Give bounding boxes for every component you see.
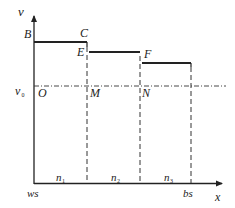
v0-label: v	[15, 84, 21, 98]
end-label: bs	[183, 187, 193, 199]
point-o: O	[38, 86, 47, 100]
point-m: M	[89, 86, 101, 100]
segment-n2-sub: 2	[117, 178, 120, 184]
segment-n1-sub: 1	[62, 178, 65, 184]
segment-n3-sub: 3	[170, 178, 173, 184]
point-e: E	[76, 45, 85, 59]
x-axis-label: x	[214, 190, 221, 204]
v0-subscript: 0	[22, 92, 25, 98]
point-b: B	[24, 27, 32, 41]
point-f: F	[143, 47, 152, 61]
velocity-step-diagram: v x ws bs v 0 B C E F O M N n 1 n 2 n 3	[0, 0, 235, 208]
y-axis-label: v	[18, 4, 24, 19]
point-c: C	[80, 26, 89, 40]
origin-label: ws	[27, 187, 39, 199]
point-n: N	[141, 86, 151, 100]
